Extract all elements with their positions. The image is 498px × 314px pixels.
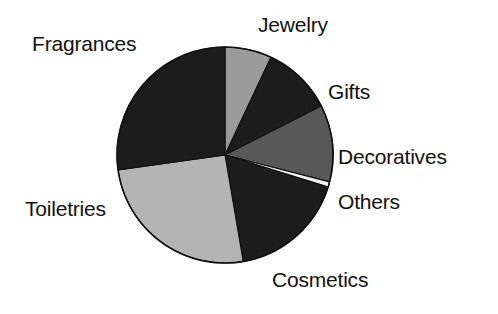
pie-slice-fragrances xyxy=(117,47,225,170)
pie-label-toiletries: Toiletries xyxy=(25,198,106,219)
pie-label-jewelry: Jewelry xyxy=(258,14,328,35)
pie-slice-group xyxy=(117,47,333,263)
pie-label-others: Others xyxy=(338,191,400,212)
pie-label-fragrances: Fragrances xyxy=(32,33,136,54)
pie-label-gifts: Gifts xyxy=(328,81,370,102)
pie-label-cosmetics: Cosmetics xyxy=(272,269,368,290)
pie-label-decoratives: Decoratives xyxy=(338,146,447,167)
pie-slice-toiletries xyxy=(118,155,243,263)
pie-chart-figure: Fragrances Jewelry Gifts Decoratives Oth… xyxy=(0,0,498,314)
